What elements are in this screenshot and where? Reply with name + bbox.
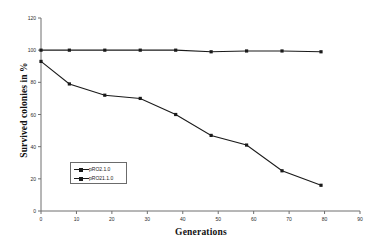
y-tick-label: 100 (13, 47, 36, 53)
y-tick-label: 80 (13, 79, 36, 85)
line-chart: Survived colonies in % Generations 02040… (0, 0, 378, 244)
data-point-marker (280, 49, 283, 52)
legend-item-0: pRO2.1.0 (74, 165, 124, 174)
x-tick-label: 0 (29, 216, 53, 222)
legend-item-1: pRO21.1.0 (74, 174, 124, 183)
data-point-marker (103, 94, 106, 97)
legend-label-0: pRO2.1.0 (89, 165, 110, 174)
data-point-marker (39, 49, 42, 52)
data-point-marker (174, 49, 177, 52)
series-0 (39, 49, 322, 54)
data-point-marker (39, 60, 42, 63)
data-point-marker (319, 184, 322, 187)
data-point-marker (245, 143, 248, 146)
data-point-marker (280, 169, 283, 172)
x-tick-label: 60 (242, 216, 266, 222)
data-point-marker (210, 134, 213, 137)
data-point-marker (139, 97, 142, 100)
y-tick-label: 60 (13, 112, 36, 118)
data-point-marker (245, 49, 248, 52)
x-tick-label: 90 (348, 216, 372, 222)
plot-area (0, 0, 378, 244)
x-tick-label: 80 (313, 216, 337, 222)
x-tick-label: 70 (277, 216, 301, 222)
data-point-marker (319, 50, 322, 53)
x-tick-label: 10 (64, 216, 88, 222)
data-point-marker (174, 113, 177, 116)
data-point-marker (103, 49, 106, 52)
x-tick-label: 30 (135, 216, 159, 222)
y-tick-label: 0 (13, 208, 36, 214)
y-tick-label: 120 (13, 15, 36, 21)
x-tick-label: 40 (171, 216, 195, 222)
data-point-marker (68, 82, 71, 85)
legend-line-marker-icon (74, 165, 89, 174)
y-tick-label: 40 (13, 144, 36, 150)
legend-label-1: pRO21.1.0 (89, 174, 113, 183)
data-point-marker (68, 49, 71, 52)
legend-line-marker-icon (74, 174, 89, 183)
x-tick-label: 20 (100, 216, 124, 222)
data-point-marker (210, 50, 213, 53)
y-tick-label: 20 (13, 176, 36, 182)
data-point-marker (139, 49, 142, 52)
chart-legend: pRO2.1.0 pRO21.1.0 (70, 162, 127, 184)
series-line (41, 50, 321, 52)
x-tick-label: 50 (206, 216, 230, 222)
